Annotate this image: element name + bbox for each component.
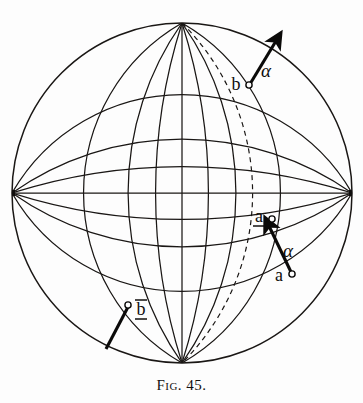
- marker-point-a-underline[interactable]: [269, 216, 275, 222]
- marker-point-b-overline-underline[interactable]: [125, 302, 131, 308]
- label-point-a: a: [275, 265, 283, 285]
- figure-container: b a a b α α Fig. 45.: [0, 0, 363, 403]
- caption-number: 45.: [186, 377, 206, 393]
- marker-point-b[interactable]: [246, 82, 252, 88]
- label-alpha-upper: α: [261, 60, 272, 81]
- stereographic-net-diagram: b a a b α α: [0, 0, 363, 403]
- caption-prefix: Fig.: [156, 377, 182, 393]
- label-point-a-underline: a: [255, 206, 263, 226]
- figure-caption: Fig. 45.: [0, 377, 363, 394]
- segment-b-lower-left: [106, 307, 128, 349]
- marker-point-a[interactable]: [289, 271, 295, 277]
- label-alpha-lower: α: [283, 240, 294, 261]
- label-point-b: b: [232, 74, 241, 94]
- label-point-b-overline-underline: b: [137, 299, 146, 319]
